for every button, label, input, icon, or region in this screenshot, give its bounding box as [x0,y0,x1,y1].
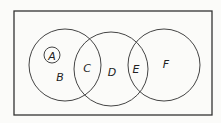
label-b: B [56,72,64,83]
venn-diagram [0,0,221,123]
label-e: E [133,64,140,75]
universe-frame [14,11,212,115]
label-f: F [163,59,169,70]
label-d: D [108,67,116,78]
label-a: A [48,51,56,62]
label-c: C [83,63,91,74]
